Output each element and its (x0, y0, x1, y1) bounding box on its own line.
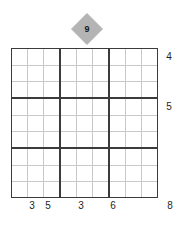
diamond-marker-value: 9 (71, 13, 103, 45)
row-label-1: 4 (163, 51, 175, 63)
grid-lines (11, 48, 158, 198)
row-label-4: 5 (163, 101, 175, 113)
column-label-5: 3 (73, 200, 89, 212)
column-label-3: 5 (40, 200, 56, 212)
column-label-2: 3 (24, 200, 40, 212)
puzzle-diagram: 9 (0, 0, 183, 241)
puzzle-grid[interactable] (11, 48, 158, 198)
column-label-7: 6 (105, 200, 121, 212)
column-label-9: 8 (162, 200, 178, 212)
diamond-marker[interactable]: 9 (71, 13, 103, 45)
